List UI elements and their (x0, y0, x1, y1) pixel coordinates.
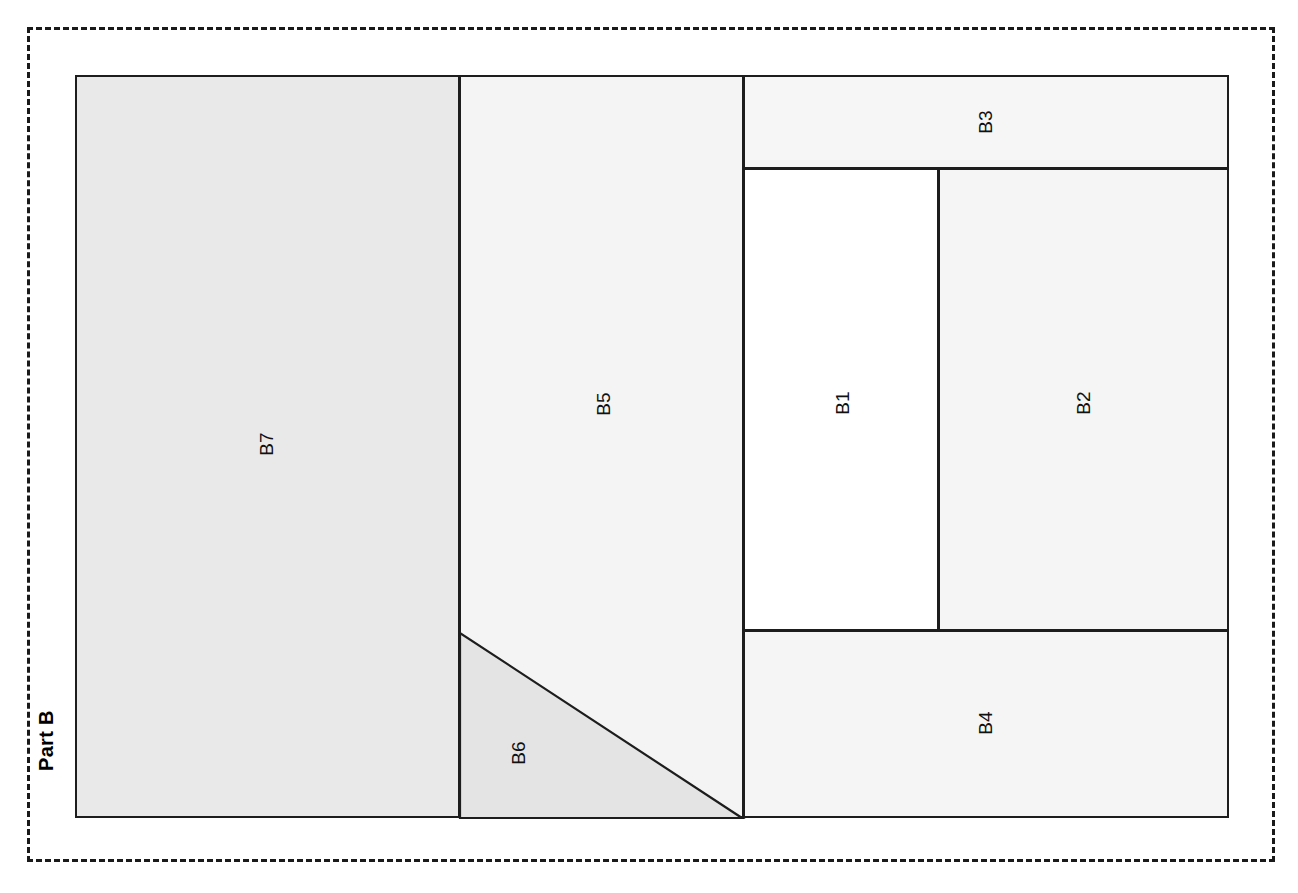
figure-canvas: Part B B7B5B6B3B1B2B4 (0, 0, 1298, 893)
region-label-b4: B4 (975, 711, 997, 734)
region-label-b2: B2 (1073, 391, 1095, 414)
region-label-b1: B1 (832, 391, 854, 414)
region-label-b5: B5 (593, 392, 615, 415)
region-label-b7: B7 (256, 432, 278, 455)
region-b5[interactable] (459, 75, 744, 818)
region-label-b3: B3 (975, 110, 997, 133)
part-b-label: Part B (33, 651, 59, 771)
region-label-b6: B6 (508, 741, 530, 764)
